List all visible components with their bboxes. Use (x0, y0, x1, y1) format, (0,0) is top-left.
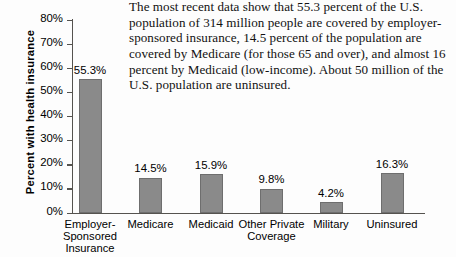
y-tick-label: 80% (40, 12, 63, 24)
y-tick-mark (67, 68, 72, 69)
category-label: Military (313, 218, 348, 230)
x-axis-line (72, 213, 425, 214)
bar-value-label: 4.2% (318, 187, 344, 199)
y-tick-label: 10% (40, 180, 63, 192)
y-tick-mark (67, 44, 72, 45)
bar (320, 202, 343, 212)
y-tick-mark (67, 20, 72, 21)
bar-value-label: 9.8% (259, 173, 285, 185)
y-tick-mark (67, 116, 72, 117)
y-tick-label: 0% (47, 205, 63, 217)
y-tick-label: 40% (40, 108, 63, 120)
y-tick-mark (67, 164, 72, 165)
bar (79, 79, 102, 212)
y-axis-line (72, 19, 73, 214)
y-tick-mark (67, 92, 72, 93)
caption-text: The most recent data show that 55.3 perc… (129, 0, 451, 93)
bar (200, 174, 223, 212)
bar-value-label: 55.3% (74, 64, 106, 76)
y-tick-label: 60% (40, 60, 63, 72)
category-label: Employer- Sponsored Insurance (63, 218, 117, 255)
y-tick-mark (67, 188, 72, 189)
y-axis-title: Percent with health insurance (24, 12, 36, 212)
y-tick-label: 70% (40, 36, 63, 48)
bar-value-label: 15.9% (195, 159, 227, 171)
y-tick-label: 50% (40, 84, 63, 96)
y-tick-mark (67, 213, 72, 214)
category-label: Medicare (127, 218, 173, 230)
category-label: Medicaid (189, 218, 234, 230)
bar-value-label: 14.5% (134, 162, 166, 174)
category-label: Uninsured (367, 218, 418, 230)
bar (381, 173, 404, 212)
y-tick-label: 20% (40, 156, 63, 168)
bar-value-label: 16.3% (376, 158, 408, 170)
bar (260, 189, 283, 213)
bar (139, 178, 162, 213)
chart-figure: The most recent data show that 55.3 perc… (0, 0, 456, 257)
y-tick-label: 30% (40, 132, 63, 144)
y-tick-mark (67, 140, 72, 141)
category-label: Other Private Coverage (239, 218, 305, 242)
